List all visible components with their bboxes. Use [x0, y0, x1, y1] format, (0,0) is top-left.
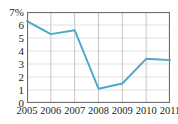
x-tick-label-2007: 2007: [64, 105, 85, 117]
x-axis-tick-labels: 2005200620072008200920102011: [27, 105, 170, 121]
x-tick-label-2011: 2011: [160, 105, 178, 117]
x-tick-label-2009: 2009: [112, 105, 133, 117]
x-tick-label-2006: 2006: [40, 105, 61, 117]
y-tick-label-6: 6: [19, 20, 25, 31]
y-axis-tick-labels: 01234567%: [0, 12, 25, 103]
x-tick-label-2008: 2008: [88, 105, 109, 117]
x-tick-label-2010: 2010: [136, 105, 157, 117]
y-tick-label-7pct: 7%: [9, 7, 24, 18]
y-tick-label-4: 4: [19, 46, 25, 57]
x-tick-label-2005: 2005: [17, 105, 38, 117]
y-tick-label-1: 1: [19, 85, 25, 96]
y-tick-label-2: 2: [19, 72, 25, 83]
y-tick-label-3: 3: [19, 59, 25, 70]
plot-svg: [27, 12, 170, 103]
y-tick-label-5: 5: [19, 33, 25, 44]
line-chart-figure: 01234567% 2005200620072008200920102011: [0, 0, 178, 124]
plot-area: [27, 12, 170, 103]
